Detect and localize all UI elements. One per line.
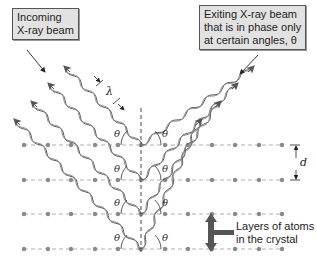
exiting-callout-line3: at certain angles, θ	[204, 34, 301, 47]
atom	[22, 143, 26, 147]
exiting-callout-line1: Exiting X-ray beam	[204, 8, 301, 21]
layers-label-line1: Layers of atoms	[236, 220, 314, 233]
atom	[280, 178, 284, 182]
spacing-marker	[290, 145, 300, 180]
layers-label-line2: in the crystal	[236, 233, 314, 246]
atom	[233, 178, 237, 182]
atom	[116, 247, 120, 251]
atom	[93, 212, 97, 216]
incoming-callout-line1: Incoming	[17, 11, 74, 24]
atom	[186, 178, 190, 182]
theta-label: θ	[114, 163, 120, 174]
atom	[93, 247, 97, 251]
atom	[210, 178, 214, 182]
atom	[280, 247, 284, 251]
theta-label: θ	[114, 197, 120, 208]
atom	[186, 212, 190, 216]
atom	[163, 247, 167, 251]
xray-wave	[50, 85, 236, 180]
theta-label: θ	[162, 128, 168, 139]
xray-wave	[16, 121, 201, 250]
atom	[210, 143, 214, 147]
atom	[69, 143, 73, 147]
atom	[257, 212, 261, 216]
atom	[22, 178, 26, 182]
atom	[233, 247, 237, 251]
exiting-callout: Exiting X-ray beam that is in phase only…	[199, 5, 306, 50]
incoming-pointer	[27, 50, 45, 72]
xray-wave	[65, 69, 253, 146]
theta-label: θ	[162, 163, 168, 174]
atom	[69, 212, 73, 216]
atom	[93, 178, 97, 182]
lambda-symbol: λ	[106, 85, 113, 98]
theta-label: θ	[114, 232, 120, 243]
atom	[116, 178, 120, 182]
theta-arc	[155, 166, 161, 180]
exiting-callout-line2: that is in phase only	[204, 21, 301, 34]
theta-arc	[155, 235, 161, 249]
atom	[257, 178, 261, 182]
atom	[69, 247, 73, 251]
theta-arcs	[121, 131, 161, 249]
atom	[186, 247, 190, 251]
xray-wave	[33, 103, 220, 214]
incoming-callout-line2: X-ray beam	[17, 24, 74, 37]
atom	[233, 212, 237, 216]
atom	[46, 212, 50, 216]
atom	[257, 143, 261, 147]
atom	[163, 212, 167, 216]
atom	[280, 212, 284, 216]
atom	[46, 143, 50, 147]
atom	[22, 247, 26, 251]
xray-waves	[15, 68, 253, 250]
theta-label: θ	[162, 197, 168, 208]
xray-wave	[32, 104, 220, 215]
atom	[163, 143, 167, 147]
theta-arc	[121, 131, 127, 145]
xray-wave	[15, 122, 200, 250]
atom	[46, 247, 50, 251]
d-symbol: d	[300, 156, 307, 169]
atom	[46, 178, 50, 182]
atom	[93, 143, 97, 147]
atom	[257, 247, 261, 251]
incoming-callout: Incoming X-ray beam	[12, 8, 79, 40]
theta-label: θ	[162, 232, 168, 243]
atom	[116, 143, 120, 147]
layers-arrow	[205, 213, 234, 252]
theta-label: θ	[114, 128, 120, 139]
atom	[22, 212, 26, 216]
atom	[280, 143, 284, 147]
atom	[69, 178, 73, 182]
atom	[116, 212, 120, 216]
xray-wave	[49, 86, 237, 181]
atom	[233, 143, 237, 147]
layers-label: Layers of atoms in the crystal	[236, 220, 314, 246]
